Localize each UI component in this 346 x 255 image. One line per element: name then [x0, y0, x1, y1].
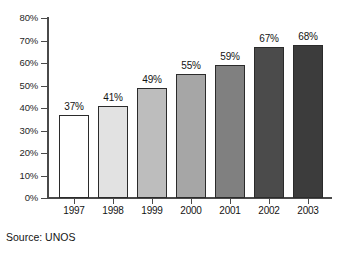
- bar-value-label: 41%: [90, 92, 136, 103]
- bar-rect: [254, 47, 284, 198]
- plot-area: 0%10%20%30%40%50%60%70%80% 37%41%49%55%5…: [0, 0, 346, 215]
- bar-value-label: 68%: [285, 31, 331, 42]
- y-axis-tick: [41, 131, 47, 132]
- bar-item: 41%: [98, 0, 128, 198]
- x-axis-tick-label: 2002: [249, 205, 289, 216]
- bar-item: 67%: [254, 0, 284, 198]
- bar-value-label: 59%: [207, 51, 253, 62]
- bar-rect: [293, 45, 323, 198]
- y-axis-tick: [41, 18, 47, 19]
- x-axis-tick: [230, 199, 231, 204]
- bar-chart-figure: 0%10%20%30%40%50%60%70%80% 37%41%49%55%5…: [0, 0, 346, 255]
- bar-value-label: 49%: [129, 74, 175, 85]
- x-axis-tick: [191, 199, 192, 204]
- y-axis-tick: [41, 41, 47, 42]
- bar-rect: [176, 74, 206, 198]
- x-axis-tick-label: 2000: [171, 205, 211, 216]
- bar-rect: [215, 65, 245, 198]
- y-axis-tick-label: 60%: [0, 58, 38, 68]
- y-axis-tick: [41, 86, 47, 87]
- y-axis-tick: [41, 198, 47, 199]
- x-axis-tick: [308, 199, 309, 204]
- y-axis-tick: [41, 176, 47, 177]
- y-axis-tick: [41, 108, 47, 109]
- y-axis-tick-label: 40%: [0, 103, 38, 113]
- y-axis-tick-label: 30%: [0, 126, 38, 136]
- x-axis-tick-label: 1997: [54, 205, 94, 216]
- y-axis-tick-label: 20%: [0, 148, 38, 158]
- bar-rect: [137, 88, 167, 198]
- y-axis-tick: [41, 153, 47, 154]
- bar-item: 59%: [215, 0, 245, 198]
- bar-item: 37%: [59, 0, 89, 198]
- bar-item: 55%: [176, 0, 206, 198]
- bar-rect: [98, 106, 128, 198]
- x-axis-tick-label: 1998: [93, 205, 133, 216]
- x-axis-tick-label: 2001: [210, 205, 250, 216]
- x-axis-tick: [113, 199, 114, 204]
- x-axis-tick: [269, 199, 270, 204]
- y-axis-tick-label: 80%: [0, 13, 38, 23]
- y-axis-tick-label: 0%: [0, 193, 38, 203]
- y-axis-tick-label: 10%: [0, 171, 38, 181]
- y-axis-line: [47, 17, 49, 199]
- x-axis-tick-label: 2003: [288, 205, 328, 216]
- bar-item: 49%: [137, 0, 167, 198]
- bar-rect: [59, 115, 89, 198]
- x-axis-tick: [152, 199, 153, 204]
- bar-item: 68%: [293, 0, 323, 198]
- x-axis-tick-label: 1999: [132, 205, 172, 216]
- x-axis-tick: [74, 199, 75, 204]
- y-axis-tick: [41, 63, 47, 64]
- y-axis-tick-label: 50%: [0, 81, 38, 91]
- source-note: Source: UNOS: [6, 231, 75, 243]
- y-axis-tick-label: 70%: [0, 36, 38, 46]
